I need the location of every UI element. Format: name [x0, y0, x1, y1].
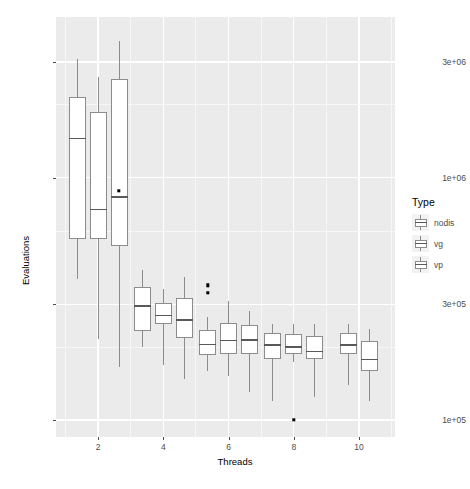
legend-key-glyph: [412, 235, 429, 252]
legend-whisker-lower-icon: [420, 247, 421, 251]
whisker-lower: [369, 371, 370, 401]
legend-title: Type: [412, 196, 435, 208]
legend-whisker-lower-icon: [420, 268, 421, 272]
whisker-upper: [369, 329, 370, 341]
x-axis-tick-label: 6: [226, 442, 231, 452]
x-axis-tick-label: 2: [96, 442, 101, 452]
y-axis-tick-mark: [53, 420, 56, 421]
x-axis-tick-label: 8: [291, 442, 296, 452]
y-axis-tick-mark: [53, 304, 56, 305]
y-axis-tick-mark: [53, 62, 56, 63]
y-axis-tick-mark: [53, 178, 56, 179]
boxplot-chart: 3e+061e+063e+051e+05 246810 Threads Eval…: [0, 0, 470, 489]
y-axis-tick-label: 1e+06: [420, 173, 466, 183]
x-axis-tick-mark: [98, 437, 99, 440]
boxplot-box: [0, 0, 470, 489]
legend-item-label: vg: [434, 239, 443, 249]
legend-item-nodis[interactable]: nodis: [412, 214, 470, 232]
y-axis-tick-label: 1e+05: [420, 415, 466, 425]
x-axis-tick-mark: [294, 437, 295, 440]
y-axis-tick-label: 3e+05: [420, 299, 466, 309]
x-axis-tick-label: 4: [161, 442, 166, 452]
legend-median-icon: [415, 243, 427, 244]
legend-item-vg[interactable]: vg: [412, 235, 470, 253]
y-axis-title: Evaluations: [20, 236, 31, 285]
x-axis-title: Threads: [0, 456, 470, 467]
legend-median-icon: [415, 222, 427, 223]
legend-key-glyph: [412, 256, 429, 273]
legend-key-glyph: [412, 214, 429, 231]
legend: Type nodisvgvp: [412, 196, 470, 286]
x-axis-tick-label: 10: [354, 442, 363, 452]
y-axis-tick-label: 3e+06: [420, 57, 466, 67]
x-axis-tick-mark: [359, 437, 360, 440]
legend-item-label: vp: [434, 260, 443, 270]
median-line: [361, 359, 378, 361]
legend-item-label: nodis: [434, 218, 454, 228]
legend-whisker-lower-icon: [420, 226, 421, 230]
box-iqr: [361, 341, 378, 371]
x-axis-tick-mark: [229, 437, 230, 440]
legend-item-vp[interactable]: vp: [412, 256, 470, 274]
legend-median-icon: [415, 264, 427, 265]
x-axis-tick-mark: [163, 437, 164, 440]
